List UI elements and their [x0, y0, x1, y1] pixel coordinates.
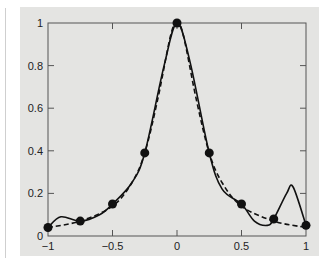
y-tick-label: 0.2	[28, 187, 43, 199]
y-tick-label: 0.6	[28, 102, 43, 114]
y-tick-label: 0.4	[28, 145, 43, 157]
x-tick-label: −0.5	[102, 240, 124, 252]
data-point-marker	[302, 221, 311, 230]
dashed-reference-curve	[48, 23, 306, 227]
data-point-marker	[269, 214, 278, 223]
data-point-marker	[205, 148, 214, 157]
data-point-marker	[76, 217, 85, 226]
y-tick-label: 1	[37, 17, 43, 29]
plot-frame	[48, 23, 306, 236]
data-point-marker	[44, 223, 53, 232]
y-tick-label: 0.8	[28, 60, 43, 72]
data-point-marker	[140, 148, 149, 157]
data-point-marker	[108, 200, 117, 209]
x-tick-label: 0.5	[234, 240, 249, 252]
data-point-marker	[237, 200, 246, 209]
x-tick-label: −1	[42, 240, 55, 252]
x-tick-label: 0	[174, 240, 180, 252]
data-point-marker	[173, 19, 182, 28]
chart: 00.20.40.60.81−1−0.500.51	[0, 0, 333, 269]
x-tick-label: 1	[303, 240, 309, 252]
solid-interpolation-curve	[48, 23, 306, 228]
